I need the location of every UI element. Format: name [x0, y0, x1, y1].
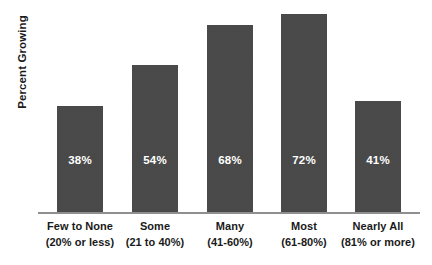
bar-value-label-1: 38%	[57, 154, 103, 167]
bar-value-label-3: 68%	[207, 154, 253, 167]
bar-group-1: 38%	[57, 106, 103, 213]
category-label-5-line2: (81% or more)	[318, 235, 432, 251]
bar-value-label-4: 72%	[281, 154, 327, 167]
category-label-2-line1: Some	[140, 220, 170, 232]
x-axis-line	[38, 212, 420, 214]
bar-group-2: 54%	[132, 65, 178, 213]
plot-area: 38% 54% 68% 72% 41%	[0, 0, 432, 213]
bar-some	[132, 65, 178, 213]
category-label-3-line1: Many	[216, 220, 244, 232]
bar-group-5: 41%	[355, 101, 401, 213]
category-label-5-line1: Nearly All	[353, 220, 404, 232]
bar-chart: Percent Growing 38% 54% 68% 72% 41% Few …	[0, 0, 432, 265]
bar-value-label-5: 41%	[355, 154, 401, 167]
bar-most	[281, 14, 327, 213]
category-label-5: Nearly All (81% or more)	[318, 219, 432, 250]
bar-group-4: 72%	[281, 14, 327, 213]
x-axis-category-labels: Few to None (20% or less) Some (21 to 40…	[0, 219, 432, 261]
bar-many	[207, 25, 253, 213]
bar-group-3: 68%	[207, 25, 253, 213]
bar-value-label-2: 54%	[132, 154, 178, 167]
category-label-4-line1: Most	[291, 220, 317, 232]
